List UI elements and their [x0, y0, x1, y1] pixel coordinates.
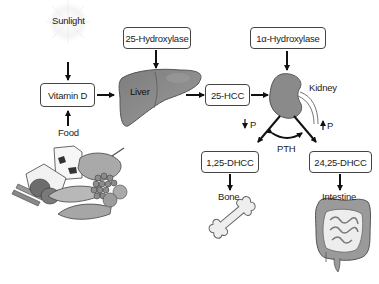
liver-label: Liver — [130, 86, 150, 97]
arrow-kidney-2425dhcc — [294, 116, 316, 142]
liver-icon — [119, 69, 201, 126]
vitamin-d-box: Vitamin D — [40, 83, 95, 107]
1a-hydroxylase-box: 1α-Hydroxylase — [250, 27, 326, 49]
2425-dhcc-box: 24,25-DHCC — [309, 151, 372, 173]
pth-label: PTH — [277, 143, 295, 154]
kidney-label: Kidney — [309, 82, 337, 93]
25-hydroxylase-box: 25-Hydroxylase — [123, 27, 191, 49]
arrow-pth-bidirectional — [272, 133, 302, 138]
diagram-canvas: Sunlight Food Vitamin D 25-Hydroxylase L… — [0, 0, 379, 284]
food-icon — [12, 146, 127, 219]
arrow-kidney-125dhcc — [258, 116, 280, 142]
p-up-label: P — [327, 120, 333, 131]
intestine-icon — [316, 198, 371, 272]
intestine-label: Intestine — [322, 191, 356, 202]
125-dhcc-box: 1,25-DHCC — [201, 151, 259, 173]
bone-label: Bone — [218, 191, 239, 202]
food-label: Food — [58, 127, 79, 138]
25-hcc-box: 25-HCC — [205, 84, 250, 106]
p-down-label: P — [250, 119, 256, 130]
sunlight-label: Sunlight — [52, 15, 85, 26]
